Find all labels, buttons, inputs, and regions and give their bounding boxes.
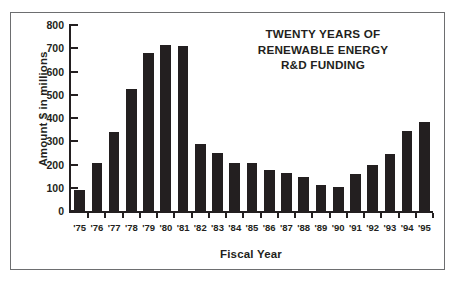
bar (264, 170, 275, 211)
x-axis-tick (173, 213, 175, 218)
y-axis-tick-label: 100 (24, 183, 64, 194)
y-axis-tick-label: 500 (24, 90, 64, 101)
x-axis-tick (191, 213, 193, 218)
x-axis-tick-label: '94 (399, 222, 416, 233)
bar (298, 177, 309, 211)
bar (212, 153, 223, 211)
bar (74, 190, 85, 211)
x-axis-tick (208, 213, 210, 218)
x-axis-tick (277, 213, 279, 218)
x-axis-tick-label: '90 (330, 222, 347, 233)
x-axis-tick (260, 213, 262, 218)
y-axis-tick-label: 800 (24, 20, 64, 31)
bar (92, 163, 103, 211)
x-axis-tick-label: '79 (140, 222, 157, 233)
x-axis-tick-label: '86 (261, 222, 278, 233)
y-axis-tick-label: 300 (24, 136, 64, 147)
x-axis-tick (398, 213, 400, 218)
x-axis-tick (363, 213, 365, 218)
y-axis-tick-label: 700 (24, 43, 64, 54)
x-axis-tick (346, 213, 348, 218)
bar (126, 89, 137, 211)
x-axis-tick (225, 213, 227, 218)
bar (333, 187, 344, 211)
x-axis-tick-label: '77 (105, 222, 122, 233)
x-axis-tick (104, 213, 106, 218)
x-axis-tick (122, 213, 124, 218)
bar (367, 165, 378, 212)
x-axis-tick-label: '88 (295, 222, 312, 233)
x-axis-tick (432, 213, 434, 218)
x-axis-tick (87, 213, 89, 218)
bar (281, 173, 292, 211)
x-axis-tick-label: '87 (278, 222, 295, 233)
x-axis-tick-label: '81 (174, 222, 191, 233)
y-axis-tick-label: 200 (24, 160, 64, 171)
bar (402, 131, 413, 211)
x-axis-tick (156, 213, 158, 218)
x-axis-title: Fiscal Year (69, 248, 433, 260)
x-axis-tick (311, 213, 313, 218)
x-axis-tick-label: '89 (312, 222, 329, 233)
bar (178, 46, 189, 211)
bar (143, 53, 154, 211)
bar (419, 122, 430, 212)
x-axis-tick-label: '80 (157, 222, 174, 233)
bar (195, 144, 206, 211)
bar (160, 45, 171, 211)
x-axis-tick-label: '82 (192, 222, 209, 233)
bar (229, 163, 240, 211)
x-axis-tick (294, 213, 296, 218)
x-axis-tick-label: '85 (243, 222, 260, 233)
x-axis-tick (415, 213, 417, 218)
y-axis-tick-label: 0 (24, 206, 64, 217)
x-axis-tick-label: '76 (88, 222, 105, 233)
bar (109, 132, 120, 211)
x-axis-tick-label: '78 (123, 222, 140, 233)
bar (247, 163, 258, 211)
x-axis-tick (139, 213, 141, 218)
x-axis-tick (329, 213, 331, 218)
x-axis-tick-label: '93 (381, 222, 398, 233)
bar (316, 185, 327, 211)
chart-figure: Amount $ in millions TWENTY YEARS OF REN… (0, 0, 456, 286)
x-axis-tick (242, 213, 244, 218)
x-axis-tick-label: '83 (209, 222, 226, 233)
y-axis-tick-label: 600 (24, 67, 64, 78)
bar-series (71, 25, 433, 211)
x-axis-tick-label: '95 (416, 222, 433, 233)
bar (385, 154, 396, 211)
bar (350, 174, 361, 211)
x-axis-tick-label: '84 (226, 222, 243, 233)
y-axis-tick-labels: 0100200300400500600700800 (22, 0, 64, 286)
y-axis-tick-label: 400 (24, 113, 64, 124)
x-axis-tick-label: '75 (71, 222, 88, 233)
x-axis-tick-label: '92 (364, 222, 381, 233)
x-axis-tick-label: '91 (347, 222, 364, 233)
x-axis-tick (380, 213, 382, 218)
